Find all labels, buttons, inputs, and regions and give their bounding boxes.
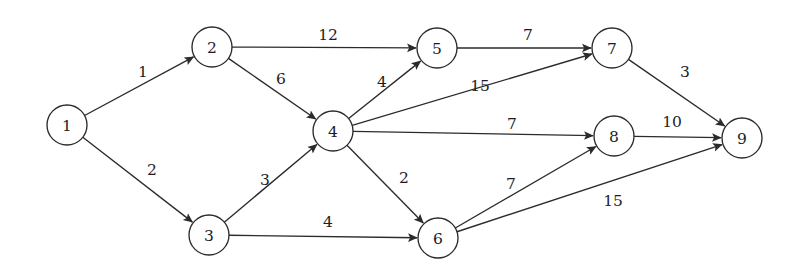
edge-6-to-8 [455, 147, 596, 228]
edge-weight-6-8: 7 [506, 175, 516, 193]
edge-weight-4-8: 7 [507, 115, 517, 133]
edge-weight-3-4: 3 [260, 171, 270, 189]
node-1[interactable]: 1 [47, 105, 87, 145]
edge-2-to-5 [232, 47, 416, 48]
node-3[interactable]: 3 [189, 215, 229, 255]
edge-weight-1-2: 1 [138, 63, 148, 81]
node-label-6: 6 [433, 230, 443, 248]
node-8[interactable]: 8 [594, 116, 634, 156]
edge-weight-7-9: 3 [680, 63, 690, 81]
edge-1-to-3 [83, 137, 193, 222]
edge-weight-4-5: 4 [377, 73, 387, 91]
node-5[interactable]: 5 [417, 28, 457, 68]
node-label-3: 3 [204, 227, 214, 245]
edge-2-to-4 [228, 58, 315, 119]
node-label-2: 2 [207, 39, 217, 57]
edge-weight-8-9: 10 [662, 113, 682, 131]
node-label-5: 5 [432, 40, 442, 58]
node-label-8: 8 [609, 128, 619, 146]
node-label-7: 7 [607, 40, 617, 58]
node-7[interactable]: 7 [592, 28, 632, 68]
nodes-layer: 123456789 [47, 27, 762, 258]
edge-3-to-6 [229, 235, 417, 237]
edge-weight-2-4: 6 [276, 70, 286, 88]
graph-diagram: 1212634415727715310 123456789 [0, 0, 804, 273]
edge-8-to-9 [634, 136, 721, 137]
edge-4-to-6 [347, 145, 423, 223]
node-label-4: 4 [328, 123, 338, 141]
node-4[interactable]: 4 [313, 111, 353, 151]
edge-weight-4-6: 2 [399, 169, 409, 187]
node-9[interactable]: 9 [722, 118, 762, 158]
node-2[interactable]: 2 [192, 27, 232, 67]
node-label-1: 1 [62, 117, 72, 135]
edge-3-to-4 [224, 144, 317, 222]
edge-weight-3-6: 4 [323, 213, 333, 231]
edge-weight-5-7: 7 [523, 26, 533, 44]
node-6[interactable]: 6 [418, 218, 458, 258]
edge-4-to-8 [353, 131, 593, 135]
edge-weight-1-3: 2 [147, 161, 157, 179]
edge-weight-2-5: 12 [318, 26, 338, 44]
edge-weight-4-7: 15 [470, 77, 490, 95]
edge-6-to-9 [457, 145, 722, 232]
edge-weight-6-9: 15 [603, 192, 623, 210]
graph-canvas: 1212634415727715310 123456789 [0, 0, 804, 273]
node-label-9: 9 [737, 130, 747, 148]
